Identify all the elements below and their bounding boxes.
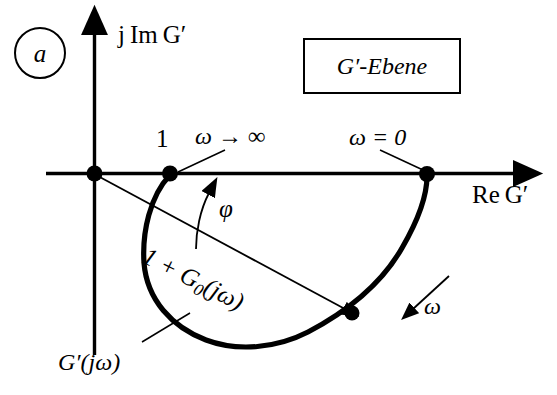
point-omega-zero (419, 166, 435, 182)
nyquist-plot-figure: a G′-Ebene j Im G′ Re G′ 1 ω → ∞ ω = 0 φ… (0, 0, 557, 395)
panel-letter-badge: a (14, 27, 66, 79)
leader-omega-infinity (178, 150, 225, 172)
real-axis-label: Re G′ (472, 182, 528, 207)
phase-angle-arc (196, 193, 209, 249)
plane-name-box: G′-Ebene (303, 38, 461, 94)
plane-name-text: G′-Ebene (337, 54, 428, 78)
panel-letter-text: a (34, 41, 47, 66)
point-omega-infinity (162, 166, 178, 182)
omega-zero-label: ω = 0 (349, 125, 406, 149)
locus-label: G′(jω) (58, 350, 120, 374)
point-origin (87, 166, 103, 182)
imaginary-axis-label: j Im G′ (118, 22, 186, 47)
omega-infinity-label: ω → ∞ (195, 124, 265, 148)
phase-angle-label: φ (219, 196, 233, 221)
point-vector-tip (345, 306, 360, 321)
leader-omega-zero (380, 150, 423, 170)
omega-direction-label: ω (424, 294, 441, 318)
unit-point-label: 1 (156, 126, 169, 151)
